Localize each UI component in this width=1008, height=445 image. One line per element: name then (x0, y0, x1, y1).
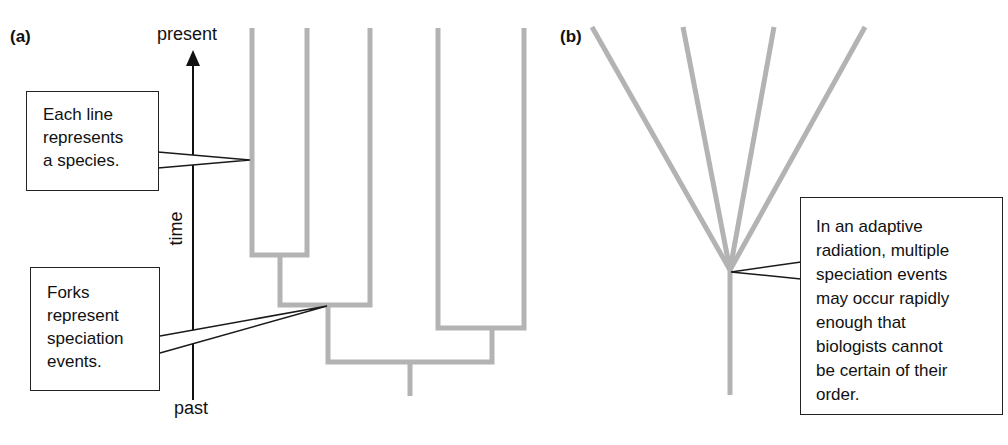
callout-species: Each line represents a species. (26, 91, 159, 191)
axis-present-label: present (157, 24, 217, 45)
callout-adaptive-radiation: In an adaptive radiation, multiple speci… (800, 197, 1003, 415)
phylogenetic-tree (252, 28, 524, 396)
time-axis (186, 50, 200, 400)
axis-past-label: past (174, 398, 208, 419)
panel-a-label: (a) (10, 27, 31, 47)
panel-b-label: (b) (560, 27, 582, 47)
callout-pointer-b (731, 262, 801, 279)
axis-time-label: time (166, 209, 187, 249)
callout-forks: Forks represent speciation events. (30, 267, 160, 391)
arrow-up-icon (186, 50, 200, 66)
